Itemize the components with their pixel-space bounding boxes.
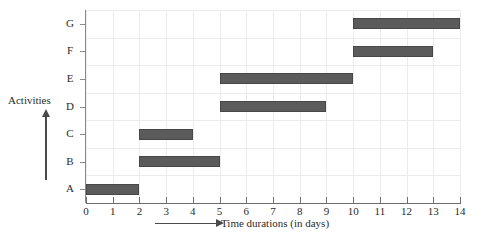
x-axis-tick	[220, 197, 221, 203]
gridline-vertical	[86, 10, 87, 203]
x-axis-tick	[300, 197, 301, 203]
gridline-vertical	[193, 10, 194, 203]
gridline-vertical	[380, 10, 381, 203]
x-axis-tick	[460, 197, 461, 203]
gantt-bar	[220, 101, 327, 112]
x-axis-tick-label: 1	[103, 206, 123, 217]
y-axis-arrow	[45, 116, 47, 180]
x-axis-tick	[433, 197, 434, 203]
y-axis-tick	[80, 189, 86, 190]
x-axis-arrow	[155, 223, 217, 224]
y-axis-tick	[80, 51, 86, 52]
x-axis-tick	[326, 197, 327, 203]
y-axis-tick-label: C	[60, 128, 80, 139]
y-axis-title: Activities	[8, 94, 51, 106]
x-axis-tick	[273, 197, 274, 203]
gridline-vertical	[113, 10, 114, 203]
x-axis-tick-label: 11	[370, 206, 390, 217]
gridline-vertical	[326, 10, 327, 203]
y-axis-tick-label: A	[60, 183, 80, 194]
gridline-vertical	[139, 10, 140, 203]
gridline-vertical	[353, 10, 354, 203]
y-axis-tick-label: E	[60, 73, 80, 84]
gridline-horizontal	[86, 38, 460, 39]
x-axis-tick	[353, 197, 354, 203]
y-axis-labels: ABCDEFG	[56, 0, 80, 237]
x-axis-tick-label: 5	[210, 206, 230, 217]
x-axis-tick-label: 0	[76, 206, 96, 217]
x-axis-tick	[407, 197, 408, 203]
gantt-bar	[86, 184, 139, 195]
gridline-vertical	[166, 10, 167, 203]
x-axis-tick-label: 8	[290, 206, 310, 217]
y-axis-tick	[80, 24, 86, 25]
x-axis-tick-label: 7	[263, 206, 283, 217]
gridline-vertical	[460, 10, 461, 203]
gridline-vertical	[433, 10, 434, 203]
gridline-horizontal	[86, 120, 460, 121]
x-axis-tick	[139, 197, 140, 203]
x-axis-tick-label: 10	[343, 206, 363, 217]
y-axis-tick	[80, 162, 86, 163]
x-axis-tick-label: 9	[316, 206, 336, 217]
y-axis-tick-label: F	[60, 45, 80, 56]
y-axis-tick-label: G	[60, 18, 80, 29]
x-axis-tick	[86, 197, 87, 203]
y-axis-tick-label: B	[60, 156, 80, 167]
gridline-horizontal	[86, 65, 460, 66]
x-axis-tick	[166, 197, 167, 203]
x-axis-tick-label: 12	[397, 206, 417, 217]
gridline-horizontal	[86, 10, 460, 11]
y-axis-tick	[80, 134, 86, 135]
x-axis-tick-label: 13	[423, 206, 443, 217]
y-axis-tick-label: D	[60, 101, 80, 112]
gantt-bar	[139, 129, 192, 140]
y-axis-tick	[80, 79, 86, 80]
gantt-bar	[353, 18, 460, 29]
gridline-horizontal	[86, 148, 460, 149]
gridline-horizontal	[86, 93, 460, 94]
x-axis-tick-label: 6	[236, 206, 256, 217]
gantt-bar	[353, 46, 433, 57]
x-axis-tick	[193, 197, 194, 203]
x-axis-line	[86, 203, 461, 204]
gantt-bar	[139, 156, 219, 167]
gantt-bar	[220, 73, 354, 84]
gridline-vertical	[407, 10, 408, 203]
x-axis-tick-label: 3	[156, 206, 176, 217]
plot-area	[86, 10, 460, 203]
x-axis-tick	[113, 197, 114, 203]
x-axis-tick-label: 2	[129, 206, 149, 217]
y-axis-tick	[80, 107, 86, 108]
x-axis-tick	[246, 197, 247, 203]
gantt-chart-figure: ABCDEFG 01234567891011121314 Activities …	[0, 0, 488, 237]
x-axis-tick-label: 4	[183, 206, 203, 217]
x-axis-title: Time durations (in days)	[221, 217, 329, 229]
x-axis-tick-label: 14	[450, 206, 470, 217]
gridline-horizontal	[86, 175, 460, 176]
x-axis-tick	[380, 197, 381, 203]
